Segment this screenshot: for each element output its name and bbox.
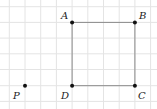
geometry-diagram: ABCDP [0, 0, 157, 109]
point-label: B [138, 10, 146, 21]
point-label: A [60, 10, 68, 21]
point-label: C [138, 90, 146, 101]
point-dot [70, 84, 74, 88]
point-label: P [12, 90, 20, 101]
points-layer: ABCDP [12, 10, 146, 101]
point-dot [133, 20, 137, 24]
point-dot [23, 84, 27, 88]
point-dot [133, 84, 137, 88]
point-dot [70, 20, 74, 24]
grid-lines [0, 0, 157, 109]
point-label: D [60, 90, 69, 101]
